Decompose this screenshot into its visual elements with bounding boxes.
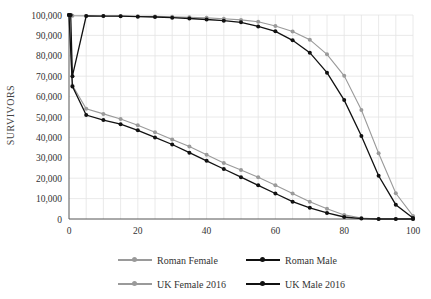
svg-text:0: 0 bbox=[57, 215, 62, 225]
svg-text:20: 20 bbox=[133, 226, 143, 236]
svg-text:0: 0 bbox=[67, 226, 72, 236]
y-axis-label-text: SURVIVORS bbox=[5, 85, 16, 145]
grid-lines bbox=[69, 15, 413, 219]
legend-item-roman-male: Roman Male bbox=[246, 253, 337, 267]
legend-label: Roman Female bbox=[157, 255, 218, 266]
svg-text:20,000: 20,000 bbox=[36, 174, 62, 184]
svg-text:40: 40 bbox=[202, 226, 212, 236]
legend-label: UK Female 2016 bbox=[157, 279, 226, 290]
legend: Roman Female Roman Male UK Female 2016 U… bbox=[118, 253, 418, 297]
svg-text:30,000: 30,000 bbox=[36, 153, 62, 163]
legend-swatch-roman-female bbox=[118, 259, 152, 261]
legend-swatch-roman-male bbox=[246, 259, 280, 261]
svg-text:90,000: 90,000 bbox=[36, 31, 62, 41]
y-axis-label: SURVIVORS bbox=[3, 60, 17, 170]
svg-text:10,000: 10,000 bbox=[36, 194, 62, 204]
tick-labels: 010,00020,00030,00040,00050,00060,00070,… bbox=[31, 11, 420, 237]
svg-text:60: 60 bbox=[271, 226, 281, 236]
legend-label: Roman Male bbox=[285, 255, 337, 266]
svg-text:50,000: 50,000 bbox=[36, 113, 62, 123]
legend-item-roman-female: Roman Female bbox=[118, 253, 218, 267]
legend-label: UK Male 2016 bbox=[285, 279, 345, 290]
legend-swatch-uk-female-2016 bbox=[118, 283, 152, 285]
svg-text:80,000: 80,000 bbox=[36, 51, 62, 61]
svg-text:40,000: 40,000 bbox=[36, 133, 62, 143]
svg-text:80: 80 bbox=[339, 226, 349, 236]
legend-swatch-uk-male-2016 bbox=[246, 283, 280, 285]
svg-text:100,000: 100,000 bbox=[31, 11, 62, 21]
svg-text:70,000: 70,000 bbox=[36, 72, 62, 82]
legend-item-uk-male-2016: UK Male 2016 bbox=[246, 277, 345, 291]
svg-text:100: 100 bbox=[406, 226, 421, 236]
legend-item-uk-female-2016: UK Female 2016 bbox=[118, 277, 226, 291]
svg-text:60,000: 60,000 bbox=[36, 92, 62, 102]
